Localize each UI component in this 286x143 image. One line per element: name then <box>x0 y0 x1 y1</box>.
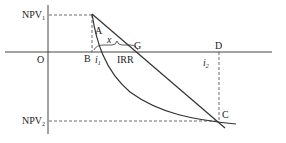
i1-label: i1 <box>95 54 101 66</box>
npv-curve <box>92 14 236 124</box>
npv2-label: NPV2 <box>22 115 45 127</box>
point-d-label: D <box>215 40 222 51</box>
i2-label: i2 <box>203 57 209 69</box>
x-label: x <box>106 34 112 45</box>
npv-irr-diagram: NPV1 NPV2 O A B G D C x IRR i1 i2 <box>0 0 286 143</box>
point-g-label: G <box>134 40 141 51</box>
origin-label: O <box>37 54 44 65</box>
point-b-label: B <box>84 53 91 64</box>
point-a-label: A <box>95 25 103 36</box>
point-c-label: C <box>222 109 229 120</box>
npv1-label: NPV1 <box>22 9 45 21</box>
irr-label: IRR <box>117 54 134 65</box>
